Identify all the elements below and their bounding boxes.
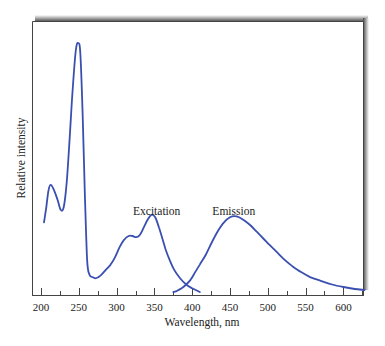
x-tick-label: 400	[184, 301, 201, 313]
emission-label: Emission	[212, 205, 255, 217]
excitation-curve	[44, 43, 200, 292]
x-tick-label: 500	[260, 301, 277, 313]
x-axis-title: Wavelength, nm	[164, 316, 239, 329]
x-tick-label: 250	[71, 301, 88, 313]
x-tick-label: 550	[297, 301, 314, 313]
x-tick-label: 350	[146, 301, 163, 313]
x-axis-ticks	[42, 288, 363, 295]
x-axis-tick-labels: 200250300350400450500550600	[33, 301, 352, 313]
x-tick-label: 600	[335, 301, 352, 313]
x-tick-label: 300	[108, 301, 125, 313]
y-axis-title: Relative intensity	[15, 117, 28, 198]
plot-frame	[33, 22, 364, 296]
emission-curve	[173, 216, 364, 292]
x-tick-label: 200	[33, 301, 50, 313]
fluorescence-spectrum-chart: 200250300350400450500550600 Excitation E…	[0, 0, 385, 346]
excitation-label: Excitation	[133, 205, 181, 217]
x-tick-label: 450	[222, 301, 239, 313]
frame-shadow-top	[35, 15, 368, 21]
